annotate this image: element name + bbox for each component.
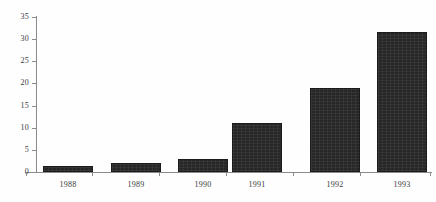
y-tick-label-20: 20	[21, 79, 29, 87]
x-tick-label-1992: 1992	[310, 180, 360, 189]
bar-chart: 0 5 10 15 20 25 30 35 1988 1989 199	[0, 0, 436, 202]
x-tick-right-edge	[430, 172, 431, 176]
x-tick-label-1991: 1991	[232, 180, 282, 189]
x-tick-sep-1	[92, 172, 93, 176]
y-tick-label-5: 5	[25, 146, 29, 154]
x-tick-sep-4	[293, 172, 294, 176]
y-tick-35	[32, 17, 37, 18]
x-tick-sep-3	[226, 172, 227, 176]
bar-1989	[111, 163, 161, 172]
y-tick-label-25: 25	[21, 57, 29, 65]
y-tick-15	[32, 106, 37, 107]
y-tick-25	[32, 61, 37, 62]
x-tick-left-edge	[26, 172, 27, 176]
x-tick-label-1993: 1993	[377, 180, 427, 189]
x-axis-line	[25, 172, 432, 173]
y-tick-label-30: 30	[21, 35, 29, 43]
bar-1990	[178, 159, 228, 172]
y-tick-label-35: 35	[21, 13, 29, 21]
bar-1993	[377, 32, 427, 172]
x-tick-label-1990: 1990	[178, 180, 228, 189]
y-tick-5	[32, 150, 37, 151]
y-tick-0	[32, 172, 37, 173]
bar-1992	[310, 88, 360, 172]
bar-1988	[43, 166, 93, 172]
bar-1991	[232, 123, 282, 172]
x-tick-label-1989: 1989	[111, 180, 161, 189]
plot-area: 0 5 10 15 20 25 30 35 1988 1989 199	[0, 0, 436, 202]
x-tick-label-1988: 1988	[43, 180, 93, 189]
x-tick-sep-2	[159, 172, 160, 176]
y-tick-30	[32, 39, 37, 40]
x-tick-sep-5	[360, 172, 361, 176]
y-tick-20	[32, 83, 37, 84]
y-tick-label-15: 15	[21, 102, 29, 110]
y-tick-10	[32, 128, 37, 129]
y-tick-label-10: 10	[21, 124, 29, 132]
